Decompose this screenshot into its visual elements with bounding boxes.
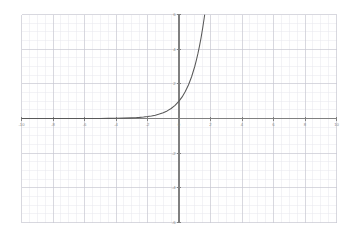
x-axis-tick-label: 6 [272,122,275,127]
x-axis-tick-label: -4 [114,122,118,127]
x-axis-tick-label: 0 [178,122,181,127]
x-axis-tick-label: -8 [51,122,55,127]
x-axis-tick-label: 10 [334,122,339,127]
y-axis-tick-label: -4 [172,185,176,190]
x-axis-tick-label: -6 [83,122,87,127]
graph-figure: -10-8-6-4-20246810-6-4-2246 [0,0,357,236]
coordinate-plane: -10-8-6-4-20246810-6-4-2246 [0,0,357,236]
x-axis-tick-label: 8 [304,122,307,127]
x-axis-tick-label: -2 [146,122,150,127]
x-axis-tick-label: 2 [209,122,212,127]
x-axis-tick-label: -10 [18,122,25,127]
y-axis-tick-label: -6 [172,220,176,225]
y-axis-tick-label: -2 [172,151,176,156]
x-axis-tick-label: 4 [241,122,244,127]
